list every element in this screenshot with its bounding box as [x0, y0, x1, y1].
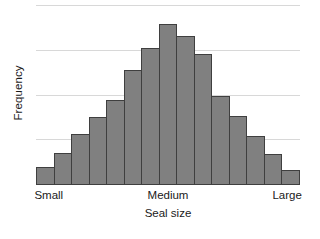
- bar: [281, 170, 300, 185]
- bar: [89, 117, 108, 185]
- x-axis-label: Seal size: [36, 207, 300, 219]
- bar: [54, 153, 73, 185]
- bar: [229, 116, 248, 185]
- bar: [124, 70, 143, 185]
- bar: [194, 54, 213, 185]
- x-tick-label: Small: [34, 189, 63, 201]
- bar: [141, 48, 160, 185]
- bar: [264, 154, 283, 185]
- x-axis-label-text: Seal size: [145, 207, 192, 219]
- histogram-figure: Frequency SmallMediumLarge Seal size: [0, 0, 320, 239]
- bar: [246, 136, 265, 185]
- bar: [106, 100, 125, 185]
- x-tick-label: Large: [272, 189, 301, 201]
- bar-series: [36, 6, 300, 185]
- plot-area: [36, 6, 300, 185]
- bar: [176, 36, 195, 185]
- x-tick-label: Medium: [148, 189, 189, 201]
- bar: [36, 167, 55, 185]
- bar: [159, 24, 178, 185]
- y-axis-label: Frequency: [0, 0, 36, 185]
- bar: [211, 96, 230, 186]
- x-axis-tick-labels: SmallMediumLarge: [36, 189, 300, 205]
- y-axis-label-text: Frequency: [12, 65, 24, 120]
- bar: [71, 134, 90, 185]
